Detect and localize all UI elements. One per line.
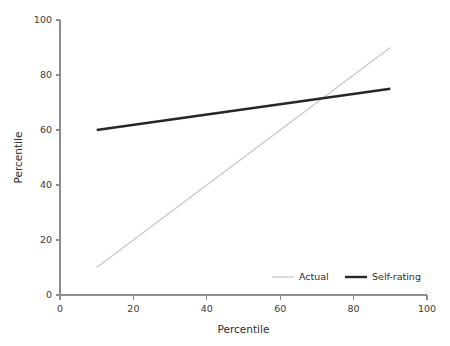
- series-line-self-rating: [97, 89, 391, 130]
- x-tick-label: 20: [127, 303, 139, 314]
- legend-label-0: Actual: [299, 271, 329, 282]
- line-chart: 020406080100020406080100PercentilePercen…: [0, 0, 450, 346]
- x-axis-title: Percentile: [218, 323, 270, 335]
- x-tick-label: 100: [418, 303, 436, 314]
- y-axis-title: Percentile: [12, 132, 24, 184]
- x-tick-label: 60: [274, 303, 286, 314]
- y-tick-label: 40: [40, 179, 52, 190]
- series-line-actual: [97, 48, 391, 268]
- y-tick-label: 80: [40, 69, 52, 80]
- legend-item[interactable]: Self-rating: [345, 271, 421, 282]
- legend-item[interactable]: Actual: [272, 271, 329, 282]
- legend-label-1: Self-rating: [372, 271, 421, 282]
- y-tick-label: 20: [40, 234, 52, 245]
- y-tick-label: 100: [34, 14, 52, 25]
- x-tick-label: 80: [348, 303, 360, 314]
- chart-container: 020406080100020406080100PercentilePercen…: [0, 0, 450, 346]
- x-tick-label: 0: [57, 303, 63, 314]
- y-tick-label: 0: [46, 289, 52, 300]
- x-tick-label: 40: [201, 303, 213, 314]
- y-tick-label: 60: [40, 124, 52, 135]
